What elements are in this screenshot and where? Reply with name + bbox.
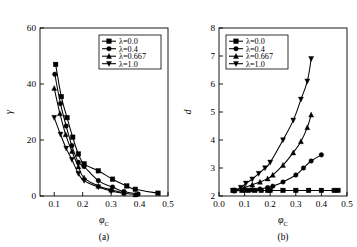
data-point-circle xyxy=(294,173,299,178)
y-tick-label: 2 xyxy=(210,191,215,201)
x-tick-label: 0.4 xyxy=(134,199,146,209)
data-point-square xyxy=(76,152,81,157)
y-tick-label: 3 xyxy=(210,163,215,173)
data-point-square xyxy=(53,62,58,67)
data-point-triangle-down xyxy=(250,177,255,182)
series-2 xyxy=(52,86,138,197)
legend-label: λ=1.0 xyxy=(246,60,265,69)
data-point-triangle-down xyxy=(82,178,87,183)
series-line xyxy=(55,74,138,194)
chart-panel-a: 0.10.20.30.40.50204060φCγ(a)λ=0.0λ=0.4λ=… xyxy=(0,0,178,247)
series-line xyxy=(54,118,124,194)
data-point-triangle-down xyxy=(69,157,74,162)
data-point-square xyxy=(294,188,299,193)
x-axis-title: φC xyxy=(99,214,110,227)
data-point-triangle-up xyxy=(52,86,57,91)
data-point-square xyxy=(70,135,75,140)
x-tick-label: 0.1 xyxy=(239,199,251,209)
x-tick-label: 0.2 xyxy=(77,199,89,209)
data-point-circle xyxy=(301,166,306,171)
series-2 xyxy=(232,112,314,193)
x-tick-label: 0.5 xyxy=(341,199,353,209)
series-0 xyxy=(53,62,160,195)
series-line xyxy=(234,155,321,191)
data-point-circle xyxy=(250,188,255,193)
data-point-circle xyxy=(52,72,57,77)
data-point-triangle-down xyxy=(52,115,57,120)
x-tick-label: 0.0 xyxy=(213,199,225,209)
data-point-circle xyxy=(319,153,324,158)
legend-label: λ=1.0 xyxy=(119,60,138,69)
data-point-circle xyxy=(82,164,87,169)
data-point-square xyxy=(107,39,112,44)
series-line xyxy=(56,64,158,193)
data-point-triangle-up xyxy=(298,139,303,144)
y-tick-label: 7 xyxy=(210,51,215,61)
x-tick-label: 0.3 xyxy=(290,199,302,209)
series-line xyxy=(54,88,135,194)
data-point-triangle-up xyxy=(57,111,62,116)
data-point-square xyxy=(110,177,115,182)
data-point-triangle-down xyxy=(64,146,69,151)
y-tick-label: 40 xyxy=(27,79,37,89)
data-point-triangle-up xyxy=(305,125,310,130)
data-point-circle xyxy=(58,101,63,106)
y-axis-title: d xyxy=(182,109,193,115)
data-point-square xyxy=(156,191,161,196)
x-tick-label: 0.2 xyxy=(264,199,276,209)
y-tick-label: 0 xyxy=(31,191,36,201)
y-tick-label: 8 xyxy=(210,23,215,33)
y-axis-title: γ xyxy=(3,109,14,114)
data-point-square xyxy=(234,39,239,44)
x-tick-label: 0.3 xyxy=(105,199,117,209)
chart-panel-b: 0.00.10.20.30.40.52345678φCd(b)λ=0.0λ=0.… xyxy=(179,0,357,247)
legend: λ=0.0λ=0.4λ=0.667λ=1.0 xyxy=(226,35,288,69)
plot-a-svg: 0.10.20.30.40.50204060φCγ(a)λ=0.0λ=0.4λ=… xyxy=(0,0,178,247)
data-point-circle xyxy=(96,178,101,183)
x-axis-title: φC xyxy=(278,214,289,227)
data-point-triangle-down xyxy=(291,118,296,123)
data-point-triangle-down xyxy=(305,79,310,84)
figure-container: 0.10.20.30.40.50204060φCγ(a)λ=0.0λ=0.4λ=… xyxy=(0,0,357,247)
data-point-circle xyxy=(281,180,286,185)
x-tick-label: 0.4 xyxy=(316,199,328,209)
data-point-circle xyxy=(234,46,239,51)
panel-caption: (b) xyxy=(278,232,289,243)
data-point-square xyxy=(96,169,101,174)
data-point-triangle-up xyxy=(265,176,270,181)
data-point-circle xyxy=(107,46,112,51)
y-tick-label: 6 xyxy=(210,79,215,89)
y-tick-label: 60 xyxy=(27,23,37,33)
series-line xyxy=(234,115,311,191)
data-point-square xyxy=(133,187,138,192)
data-point-triangle-down xyxy=(298,97,303,102)
data-point-circle xyxy=(64,124,69,129)
data-point-triangle-down xyxy=(58,132,63,137)
data-point-square xyxy=(65,115,70,120)
data-point-circle xyxy=(265,185,270,190)
legend: λ=0.0λ=0.4λ=0.667λ=1.0 xyxy=(99,35,161,69)
data-point-square xyxy=(319,188,324,193)
y-tick-label: 5 xyxy=(210,107,215,117)
data-point-triangle-down xyxy=(76,171,81,176)
y-tick-label: 4 xyxy=(210,135,215,145)
data-point-square xyxy=(124,184,129,189)
panel-caption: (a) xyxy=(99,232,109,243)
plot-b-svg: 0.00.10.20.30.40.52345678φCd(b)λ=0.0λ=0.… xyxy=(179,0,357,247)
data-point-triangle-up xyxy=(309,112,314,117)
data-point-triangle-down xyxy=(309,57,314,62)
data-point-circle xyxy=(309,159,314,164)
data-point-circle xyxy=(258,187,263,192)
data-point-square xyxy=(306,188,311,193)
x-tick-label: 0.1 xyxy=(48,199,60,209)
data-point-triangle-down xyxy=(281,138,286,143)
data-point-square xyxy=(336,188,341,193)
data-point-triangle-up xyxy=(63,132,68,137)
series-3 xyxy=(52,115,127,196)
series-line xyxy=(234,59,311,191)
x-tick-label: 0.5 xyxy=(162,199,174,209)
y-tick-label: 20 xyxy=(27,135,37,145)
data-point-circle xyxy=(270,184,275,189)
data-point-square xyxy=(281,188,286,193)
